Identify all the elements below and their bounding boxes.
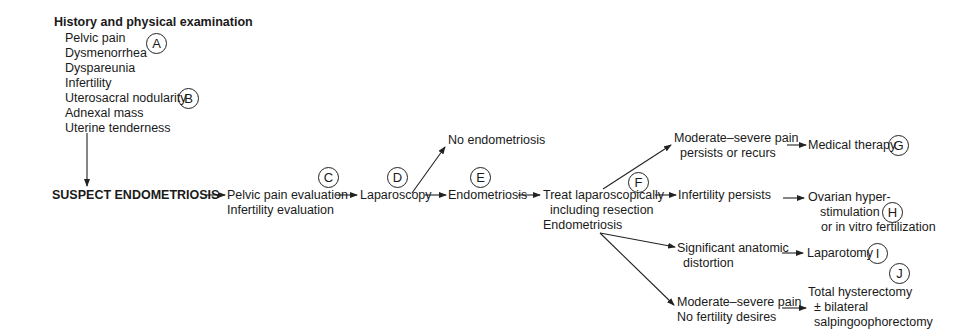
laparotomy-node: Laparotomy	[807, 246, 873, 261]
label-b-badge: B	[178, 88, 199, 109]
ovarian-node-line2: stimulation	[820, 205, 880, 220]
endometriosis-node: Endometriosis	[448, 188, 527, 203]
history-title: History and physical examination	[54, 15, 253, 30]
laparoscopy-node: Laparoscopy	[360, 188, 432, 203]
no-fertility-node-line2: No fertility desires	[677, 310, 776, 325]
hysterectomy-node-line3: salpingoophorectomy	[814, 315, 933, 330]
history-item-dyspareunia: Dyspareunia	[65, 61, 135, 76]
label-c-badge: C	[318, 167, 339, 188]
hysterectomy-node-line1: Total hysterectomy	[808, 285, 912, 300]
label-g-badge: G	[888, 135, 909, 156]
treat-node-line3: Endometriosis	[543, 218, 622, 233]
history-item-uterosacral: Uterosacral nodularity	[65, 91, 187, 106]
label-e-badge: E	[470, 167, 491, 188]
history-item-uterine-tenderness: Uterine tenderness	[65, 121, 171, 136]
label-h-badge: H	[882, 202, 903, 223]
distortion-node-line1: Significant anatomic	[677, 241, 789, 256]
hysterectomy-node-line2: ± bilateral	[814, 300, 868, 315]
history-item-infertility: Infertility	[65, 76, 112, 91]
label-d-badge: D	[387, 167, 408, 188]
label-a-badge: A	[146, 33, 167, 54]
evaluation-node-line1: Pelvic pain evaluation	[227, 188, 348, 203]
pain-persists-node-line2: persists or recurs	[680, 146, 776, 161]
history-item-pelvic-pain: Pelvic pain	[65, 31, 125, 46]
ovarian-node-line1: Ovarian hyper-	[808, 190, 891, 205]
ovarian-node-line3: or in vitro fertilization	[821, 220, 936, 235]
label-i-badge: I	[867, 243, 888, 264]
pain-persists-node-line1: Moderate–severe pain	[674, 131, 798, 146]
history-item-dysmenorrhea: Dysmenorrhea	[65, 46, 147, 61]
evaluation-node-line2: Infertility evaluation	[227, 203, 334, 218]
infertility-persists-node: Infertility persists	[678, 188, 771, 203]
treat-node-line1: Treat laparoscopically	[543, 188, 664, 203]
suspect-endometriosis-node: SUSPECT ENDOMETRIOSIS	[52, 188, 219, 203]
label-j-badge: J	[889, 263, 910, 284]
no-fertility-node-line1: Moderate–severe pain	[677, 295, 801, 310]
treat-node-line2: including resection	[550, 203, 654, 218]
history-item-adnexal-mass: Adnexal mass	[65, 106, 144, 121]
label-f-badge: F	[628, 172, 649, 193]
distortion-node-line2: distortion	[683, 256, 734, 271]
no-endometriosis-node: No endometriosis	[448, 133, 545, 148]
medical-therapy-node: Medical therapy	[808, 138, 896, 153]
